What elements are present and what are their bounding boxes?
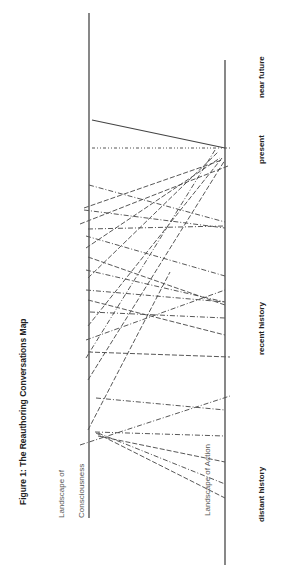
conversation-line xyxy=(84,210,225,228)
conversation-line xyxy=(80,396,230,445)
consciousness-label-line1: Landscape of xyxy=(57,469,66,518)
conversation-line xyxy=(84,160,222,208)
conversation-line xyxy=(86,150,215,358)
conversation-lines xyxy=(80,120,232,498)
conversation-line xyxy=(88,352,230,357)
time-label-near-future: near future xyxy=(257,56,266,98)
figure-title: Figure 1: The Reauthoring Conversations … xyxy=(18,318,28,505)
conversation-line xyxy=(88,226,225,229)
consciousness-label-line2: Consciousness xyxy=(77,464,86,518)
conversation-line xyxy=(86,270,225,302)
action-label: Landscape of Action xyxy=(203,444,212,516)
time-label-present: present xyxy=(257,135,266,164)
conversation-line xyxy=(86,158,220,248)
conversation-line xyxy=(89,185,225,222)
conversation-line xyxy=(92,120,225,148)
time-label-recent-history: recent history xyxy=(257,302,266,355)
conversation-line xyxy=(95,432,225,436)
time-label-distant-history: distant history xyxy=(257,466,266,522)
conversation-line xyxy=(80,166,228,224)
conversation-line xyxy=(88,272,170,430)
conversation-line xyxy=(90,312,225,318)
reauthoring-map-diagram: Figure 1: The Reauthoring Conversations … xyxy=(0,0,282,581)
conversation-line xyxy=(86,290,225,302)
